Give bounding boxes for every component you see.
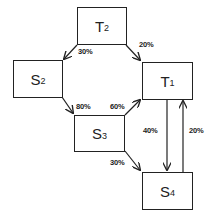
node-s3-label: S — [92, 125, 102, 142]
edge-s2-s3 — [62, 97, 73, 113]
edge-label-s3-t1: 60% — [110, 102, 124, 111]
node-t1: T1 — [142, 62, 193, 100]
node-s2-label: S — [30, 71, 40, 88]
node-s4-sub: 4 — [170, 188, 175, 198]
node-s4-label: S — [160, 183, 170, 200]
node-t2-label: T — [95, 18, 104, 35]
edge-label-t1-s4: 40% — [143, 126, 157, 135]
node-t1-label: T — [160, 73, 169, 90]
edge-label-s4-t1: 20% — [189, 126, 203, 135]
node-s3: S3 — [74, 115, 125, 152]
node-s2-sub: 2 — [41, 76, 46, 86]
edge-label-s3-s4: 30% — [110, 158, 124, 167]
edge-label-t2-s2: 30% — [78, 47, 92, 56]
node-s3-sub: 3 — [102, 131, 107, 141]
flow-diagram: T2 S2 T1 S3 S4 30% 20% 80% 60% 30% 40% 2… — [0, 0, 212, 219]
node-t1-sub: 1 — [170, 78, 175, 88]
edge-label-t2-t1: 20% — [139, 40, 153, 49]
edge-t2-t1 — [126, 45, 140, 60]
edge-label-s2-s3: 80% — [76, 102, 90, 111]
edge-s3-t1 — [125, 100, 140, 115]
node-t2: T2 — [77, 7, 127, 45]
node-s2: S2 — [13, 60, 63, 98]
edge-t2-s2 — [64, 45, 77, 59]
edge-s3-s4 — [125, 151, 140, 170]
node-s4: S4 — [142, 172, 193, 210]
node-t2-sub: 2 — [104, 23, 109, 33]
